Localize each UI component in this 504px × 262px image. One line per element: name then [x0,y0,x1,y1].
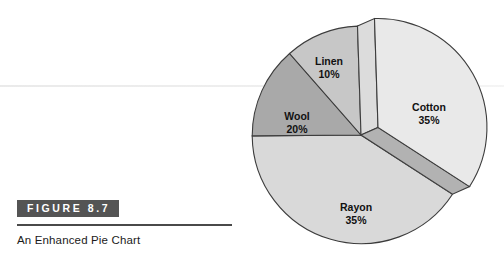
pie-label-rayon-name: Rayon [340,201,372,213]
figure-caption-text: An Enhanced Pie Chart [17,234,232,246]
pie-label-cotton-name: Cotton [412,101,446,113]
pie-label-wool-name: Wool [284,110,310,122]
figure-number-badge: FIGURE 8.7 [17,200,119,217]
pie-chart-svg: Cotton 35% Rayon 35% Wool 20% Linen 10% [236,8,496,256]
pie-label-linen-name: Linen [315,55,343,67]
pie-label-rayon-value: 35% [345,214,367,226]
pie-label-wool-value: 20% [286,123,308,135]
pie-label-cotton-value: 35% [418,114,440,126]
pie-label-linen-value: 10% [318,68,340,80]
pie-chart: Cotton 35% Rayon 35% Wool 20% Linen 10% [236,8,496,256]
figure-divider-rule [17,224,232,226]
figure-block: FIGURE 8.7 An Enhanced Pie Chart [17,198,232,246]
